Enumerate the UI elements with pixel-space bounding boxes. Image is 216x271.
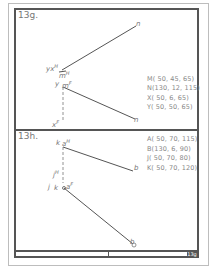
superscript-h: H: [66, 70, 70, 76]
superscript-f: F: [70, 181, 73, 187]
coord-x: X( 50, 6, 65): [147, 94, 189, 102]
line-mn-frontal: [63, 87, 135, 119]
coord-k: K( 50, 70, 120): [147, 164, 197, 172]
point-label-yx-h: yxH: [46, 63, 58, 73]
superscript-h: H: [66, 138, 70, 144]
point-label-j-h: jH: [53, 169, 59, 179]
line-mn-horizontal: [62, 26, 136, 70]
point-label-j-f: j: [48, 183, 50, 191]
problem-label-13h: 13h.: [18, 131, 38, 141]
point-label-m-f: mF: [62, 80, 72, 90]
superscript-h: H: [54, 63, 58, 69]
point-label-b-h: b: [134, 164, 138, 172]
coord-j: J( 50, 70, 80): [147, 154, 191, 162]
line-ab-frontal: [64, 188, 133, 244]
superscript-f: F: [69, 80, 72, 86]
point-label-k-f: k: [54, 184, 58, 192]
point-m: m: [62, 82, 69, 90]
superscript-h: H: [55, 169, 59, 175]
line-ab-horizontal: [63, 147, 133, 171]
point-label-n-h: n: [136, 20, 140, 28]
superscript-f: F: [56, 119, 59, 125]
coord-y: Y( 50, 50, 65): [147, 103, 193, 111]
point-label-y-f: y: [55, 80, 59, 88]
point-label-b-f: b: [130, 238, 134, 246]
coord-a: A( 50, 70, 115): [147, 135, 197, 143]
point-label-k-h: k: [56, 139, 60, 147]
point-label-x-f: xF: [52, 119, 59, 129]
point-label-a-h: aH: [62, 138, 70, 148]
problem-label-13h-text: 13h.: [18, 131, 38, 141]
point-label-n-f: n: [134, 116, 138, 124]
coord-m: M( 50, 45, 65): [147, 75, 194, 83]
point-label-a-f: aF: [66, 181, 73, 191]
point-label-m-h: mH: [59, 70, 70, 80]
coord-b: B(130, 6, 90): [147, 145, 191, 153]
problem-label-13g: 13g.: [18, 10, 38, 20]
coord-n: N(130, 12, 115): [147, 84, 200, 92]
